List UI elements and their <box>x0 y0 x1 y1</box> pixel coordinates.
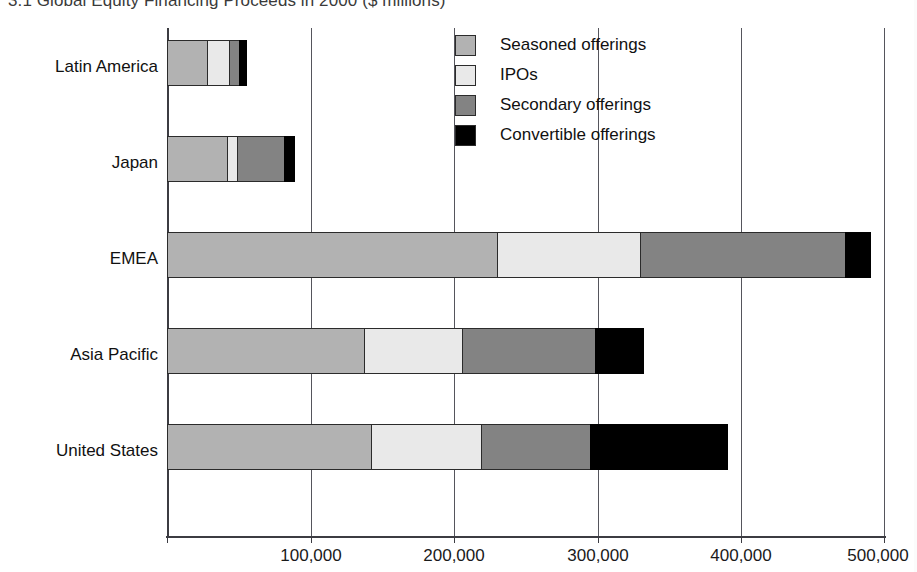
x-tick-label-300000: 300,000 <box>567 546 628 566</box>
x-tick-label-100000: 100,000 <box>280 546 341 566</box>
bar-segment-convertible-united-states <box>590 424 728 470</box>
x-tick-label-400000: 400,000 <box>710 546 771 566</box>
y-label-latin-america: Latin America <box>55 57 158 77</box>
legend-swatch-secondary-offerings <box>455 95 476 116</box>
bar-segment-secondary-united-states <box>481 424 591 470</box>
bar-segment-seasoned-japan <box>167 136 228 182</box>
gridline-500000 <box>884 28 885 536</box>
bar-segment-seasoned-united-states <box>167 424 372 470</box>
bar-segment-ipos-emea <box>497 232 641 278</box>
bar-segment-secondary-emea <box>640 232 846 278</box>
y-label-united-states: United States <box>56 441 158 461</box>
legend-label-secondary-offerings: Secondary offerings <box>500 95 651 115</box>
x-tick-300000 <box>598 536 599 543</box>
x-tick-label-500000: 500,000 <box>847 546 908 566</box>
y-axis-category-labels: Latin America Japan EMEA Asia Pacific Un… <box>0 28 158 536</box>
bar-segment-ipos-latin-america <box>207 40 230 86</box>
legend-item-secondary-offerings: Secondary offerings <box>455 90 755 120</box>
bar-segment-secondary-asia-pacific <box>462 328 596 374</box>
legend-swatch-ipos <box>455 65 476 86</box>
y-label-emea: EMEA <box>110 249 158 269</box>
chart-legend: Seasoned offerings IPOs Secondary offeri… <box>455 30 755 150</box>
legend-item-seasoned-offerings: Seasoned offerings <box>455 30 755 60</box>
bar-segment-convertible-japan <box>284 136 295 182</box>
bar-segment-secondary-japan <box>237 136 285 182</box>
bar-segment-convertible-latin-america <box>239 40 247 86</box>
x-tick-500000 <box>884 536 885 543</box>
bar-segment-seasoned-latin-america <box>167 40 208 86</box>
y-label-japan: Japan <box>112 153 158 173</box>
chart-title: 3.1 Global Equity Financing Proceeds in … <box>8 0 446 11</box>
x-tick-0 <box>167 536 168 543</box>
legend-item-ipos: IPOs <box>455 60 755 90</box>
bar-segment-ipos-united-states <box>371 424 482 470</box>
legend-item-convertible-offerings: Convertible offerings <box>455 120 755 150</box>
x-tick-label-200000: 200,000 <box>423 546 484 566</box>
legend-label-ipos: IPOs <box>500 65 538 85</box>
x-axis-line <box>166 536 886 538</box>
bar-segment-seasoned-asia-pacific <box>167 328 365 374</box>
legend-swatch-convertible-offerings <box>455 125 476 146</box>
bar-segment-convertible-asia-pacific <box>595 328 644 374</box>
stacked-bar-chart: 3.1 Global Equity Financing Proceeds in … <box>0 0 917 572</box>
legend-label-convertible-offerings: Convertible offerings <box>500 125 656 145</box>
bar-segment-ipos-asia-pacific <box>364 328 463 374</box>
bar-segment-seasoned-emea <box>167 232 498 278</box>
y-label-asia-pacific: Asia Pacific <box>70 345 158 365</box>
bar-segment-convertible-emea <box>845 232 871 278</box>
x-tick-400000 <box>741 536 742 543</box>
legend-swatch-seasoned-offerings <box>455 35 476 56</box>
x-tick-100000 <box>311 536 312 543</box>
legend-label-seasoned-offerings: Seasoned offerings <box>500 35 646 55</box>
x-tick-200000 <box>454 536 455 543</box>
